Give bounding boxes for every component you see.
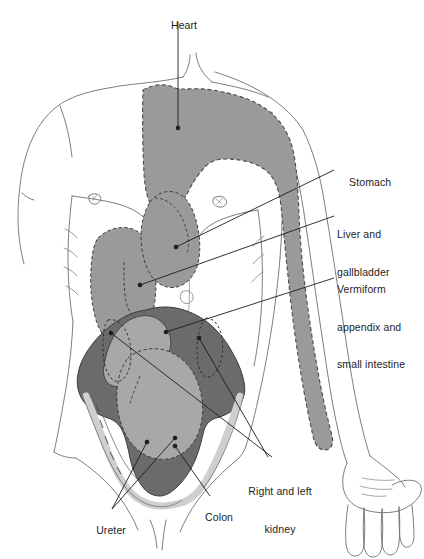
navel xyxy=(180,291,193,304)
right-flank-crease xyxy=(254,210,262,366)
left-chest-contour xyxy=(72,196,148,222)
right-hand-outline xyxy=(343,456,422,557)
label-ureter-text: Ureter xyxy=(96,524,126,536)
left-rib-markings xyxy=(64,229,78,295)
anatomy-diagram: Heart Stomach Liver and gallbladder Verm… xyxy=(0,0,424,559)
label-ureter: Ureter xyxy=(82,511,128,549)
label-heart-text: Heart xyxy=(171,19,197,31)
right-hip xyxy=(238,446,246,459)
label-stomach: Stomach xyxy=(337,163,417,201)
right-chest-contour xyxy=(196,210,258,242)
label-liver-line1: Liver and xyxy=(337,228,417,241)
label-stomach-text: Stomach xyxy=(349,176,391,188)
left-flank xyxy=(54,322,73,452)
perineum-detail-2 xyxy=(162,520,166,550)
label-appendix-line1: Vermiform xyxy=(337,283,423,296)
label-kidney-line2: kidney xyxy=(236,523,324,536)
label-right-and-left-kidney: Right and left kidney xyxy=(236,460,324,559)
label-appendix-line3: small intestine xyxy=(337,358,423,371)
left-axilla xyxy=(60,106,72,157)
perineum-detail xyxy=(150,520,157,548)
neck-outline-right xyxy=(196,53,212,82)
left-torso-side xyxy=(68,196,73,322)
label-colon-text: Colon xyxy=(205,511,233,523)
label-kidney-line1: Right and left xyxy=(236,485,324,498)
left-hip xyxy=(54,452,76,458)
label-appendix-line2: appendix and xyxy=(337,321,423,334)
label-heart: Heart xyxy=(158,6,198,44)
neck-outline xyxy=(183,55,190,77)
right-nipple-mark xyxy=(216,198,223,204)
left-arm-inner xyxy=(22,193,34,200)
right-torso-lower xyxy=(246,258,280,446)
label-vermiform-appendix-and-small-intestine: Vermiform appendix and small intestine xyxy=(337,258,423,396)
label-colon: Colon xyxy=(192,498,234,536)
